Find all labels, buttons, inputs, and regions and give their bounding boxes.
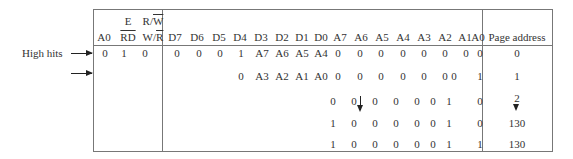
row4-a1: 1 [437,138,461,150]
header-page-address: Page address [482,31,552,43]
header-d7: D7 [163,31,187,43]
row0-d7: 0 [165,47,189,59]
a6-down-arrow-icon [360,96,361,110]
high-bits-arrow-icon [71,53,92,54]
row0-a5: 0 [369,47,393,59]
row3-a1: 1 [437,117,461,129]
header-d6: D6 [185,31,209,43]
high-bits-label: High hits [22,47,63,59]
rw-prefix: R/ [143,15,153,27]
header-rw: R/W [141,15,165,27]
wr-prefix: W/ [143,31,156,43]
rw-over: W [153,15,163,27]
page-down-arrow-icon [516,104,517,109]
header-rd: RD [116,31,140,43]
row2-a1: 1 [437,95,461,107]
row1-page: 1 [482,70,552,82]
row4-page: 130 [482,138,552,150]
row1-a1: 0 [442,70,466,82]
row0-rw: 0 [133,47,157,59]
row2-page: 2 [482,92,552,104]
header-e: E [116,15,140,27]
row1-a7: 0 [326,70,350,82]
row1-a5: 0 [369,70,393,82]
row0-page: 0 [482,47,552,59]
row3-page: 130 [482,117,552,129]
row0-a7: 0 [326,47,350,59]
header-wr: W/R [141,31,165,43]
header-a0: A0 [92,31,116,43]
table-right-border [552,9,553,152]
low-bits-arrow-icon [71,73,92,74]
